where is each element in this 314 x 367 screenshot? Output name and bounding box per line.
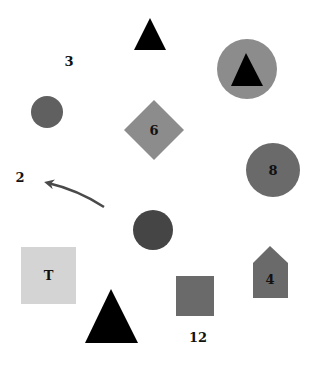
circle-small-left <box>31 96 63 128</box>
square-label: T <box>44 268 54 283</box>
house-label: 4 <box>265 272 274 287</box>
triangle-top <box>134 18 166 50</box>
square-T: T <box>21 247 76 304</box>
diamond-6: 6 <box>124 100 184 160</box>
circle-8: 8 <box>246 143 300 197</box>
arrow-icon <box>48 183 104 207</box>
label-12: 12 <box>189 330 207 345</box>
circle-label: 8 <box>268 163 277 178</box>
circle-dark <box>133 210 173 250</box>
square-gray <box>176 276 214 316</box>
house-4: 4 <box>253 246 288 298</box>
label-2: 2 <box>15 170 24 185</box>
circle-with-triangle <box>217 39 277 99</box>
diagram-canvas: 3 6 8 2 T 4 12 <box>0 0 314 367</box>
triangle-big <box>85 289 138 343</box>
diamond-label: 6 <box>149 123 158 138</box>
label-3: 3 <box>64 54 73 69</box>
